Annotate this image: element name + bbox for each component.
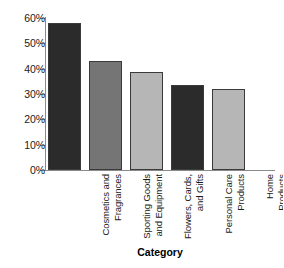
- x-axis-category-label: Personal Care Products: [223, 174, 246, 244]
- y-axis-line: [45, 17, 46, 171]
- x-axis-category-label: Cosmetics and Fragrances: [100, 174, 123, 244]
- x-axis-category-label: Home Products: [264, 174, 284, 244]
- bar: [130, 72, 163, 170]
- bar: [212, 89, 245, 170]
- y-axis-tick-label: 60%: [9, 13, 45, 24]
- bar: [48, 23, 81, 170]
- y-axis-tick-label: 50%: [9, 38, 45, 49]
- y-axis-tick-label: 30%: [9, 89, 45, 100]
- y-axis-tick-label: 10%: [9, 140, 45, 151]
- y-axis-tick-label: 20%: [9, 114, 45, 125]
- bar-chart: 0%10%20%30%40%50%60% Cosmetics and Fragr…: [0, 0, 283, 268]
- bar: [171, 85, 204, 170]
- x-axis-title: Category: [45, 246, 275, 258]
- bar: [89, 61, 122, 170]
- plot-area: [47, 18, 275, 170]
- x-axis-line: [45, 170, 275, 171]
- y-axis-tick-label: 40%: [9, 64, 45, 75]
- x-axis-category-label: Sporting Goods and Equipment: [141, 174, 164, 244]
- x-axis-category-label: Flowers, Cards, and Gifts: [182, 174, 205, 244]
- y-axis-tick-label: 0%: [9, 165, 45, 176]
